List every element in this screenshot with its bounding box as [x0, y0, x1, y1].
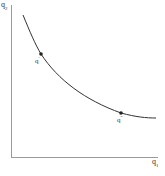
indifference-curve-diagram: q2 q1 q′ q″	[0, 0, 165, 176]
q-prime-label: q′	[35, 56, 40, 65]
q-double-prime-label: q″	[117, 115, 123, 124]
y-axis-label-sub: 2	[5, 6, 8, 11]
y-axis-label: q2	[1, 1, 8, 11]
point-q-prime	[39, 52, 43, 56]
curve	[23, 15, 156, 118]
q-double-prime-mark: ″	[121, 115, 123, 120]
x-axis-label: q1	[152, 158, 159, 168]
q-prime-mark: ′	[39, 56, 40, 61]
x-axis-label-sub: 1	[156, 163, 159, 168]
diagram-canvas	[0, 0, 165, 176]
